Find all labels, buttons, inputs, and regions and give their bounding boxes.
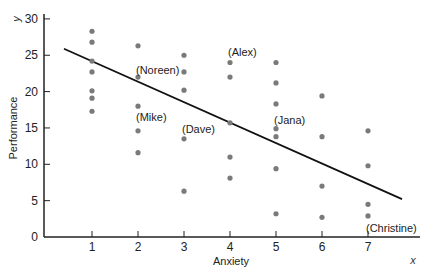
data-point [227, 176, 232, 181]
y-tick-label: 25 [25, 48, 39, 62]
axes: 0510152025301234567 [25, 12, 420, 254]
point-label: (Dave) [182, 123, 215, 135]
x-tick-label: 5 [273, 240, 280, 254]
data-point [365, 163, 370, 168]
point-label: (Christine) [366, 222, 417, 234]
data-point [89, 40, 94, 45]
data-point [365, 202, 370, 207]
data-point [273, 101, 278, 106]
data-point [227, 154, 232, 159]
data-point [181, 136, 186, 141]
data-point [319, 215, 324, 220]
x-tick-label: 4 [227, 240, 234, 254]
data-point [181, 88, 186, 93]
data-point [273, 126, 278, 131]
data-point [181, 69, 186, 74]
data-point [89, 69, 94, 74]
data-point [89, 29, 94, 34]
data-point [273, 80, 278, 85]
x-axis-title: Anxiety [213, 255, 250, 267]
data-point [365, 128, 370, 133]
x-tick-label: 2 [135, 240, 142, 254]
data-point [319, 93, 324, 98]
y-tick-label: 5 [31, 194, 38, 208]
data-point [181, 53, 186, 58]
data-point [135, 104, 140, 109]
data-point [135, 150, 140, 155]
data-point [365, 213, 370, 218]
y-tick-label: 20 [25, 85, 39, 99]
x-tick-label: 1 [89, 240, 96, 254]
y-tick-label: 15 [25, 121, 39, 135]
y-axis-title: Performance [7, 97, 19, 160]
scatter-chart: 0510152025301234567 (Noreen)(Mike)(Dave)… [0, 0, 430, 276]
x-tick-label: 7 [365, 240, 372, 254]
x-tick-label: 6 [319, 240, 326, 254]
y-tick-label: 0 [31, 230, 38, 244]
y-axis-variable: y [10, 15, 22, 23]
data-point [227, 60, 232, 65]
data-point [273, 134, 278, 139]
data-point [227, 74, 232, 79]
y-tick-label: 10 [25, 157, 39, 171]
data-point [319, 184, 324, 189]
data-point [227, 120, 232, 125]
data-point [135, 128, 140, 133]
x-axis-variable: x [409, 254, 416, 266]
data-point [89, 109, 94, 114]
regression-line [64, 49, 402, 199]
data-point [273, 60, 278, 65]
point-label: (Jana) [274, 114, 305, 126]
y-tick-label: 30 [25, 12, 39, 26]
data-point [89, 58, 94, 63]
data-point [89, 96, 94, 101]
point-label: (Alex) [228, 46, 257, 58]
point-labels: (Noreen)(Mike)(Dave)(Alex)(Jana)(Christi… [136, 46, 417, 233]
data-point [273, 211, 278, 216]
data-point [273, 166, 278, 171]
data-point [181, 189, 186, 194]
point-label: (Noreen) [136, 64, 179, 76]
x-tick-label: 3 [181, 240, 188, 254]
regression-line-segment [64, 49, 402, 199]
data-point [135, 43, 140, 48]
point-label: (Mike) [136, 111, 167, 123]
data-point [89, 88, 94, 93]
data-point [319, 134, 324, 139]
